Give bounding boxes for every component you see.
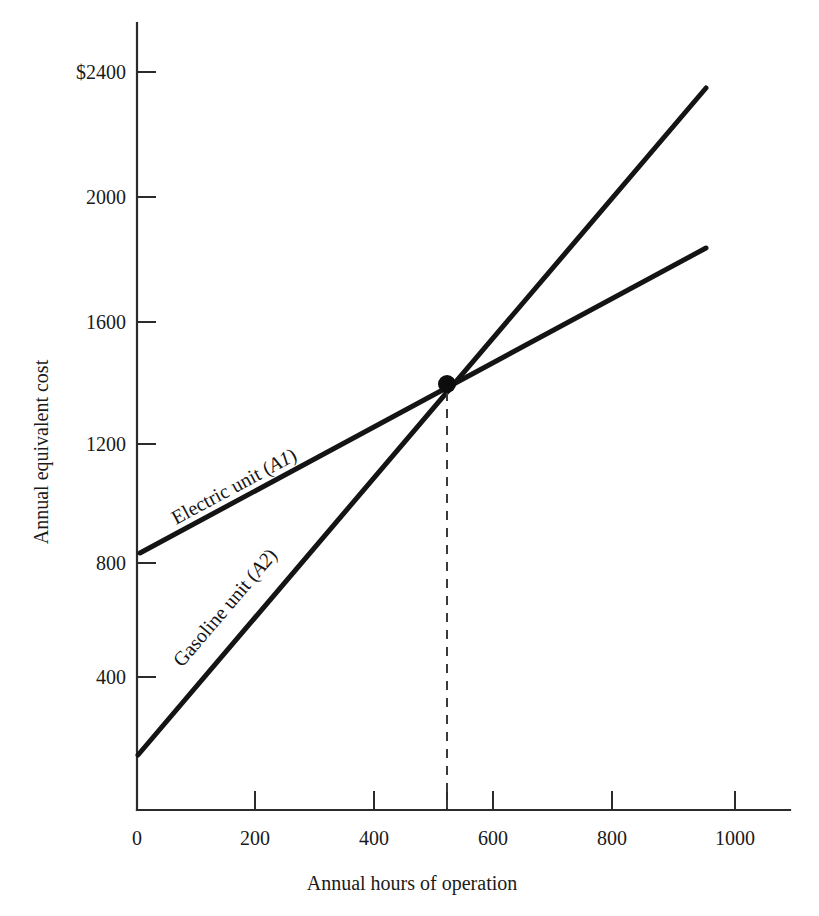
y-ticklabel-2400: $2400 <box>76 61 126 83</box>
x-ticks-group <box>255 786 735 810</box>
series-line-electric-unit <box>140 248 706 553</box>
x-ticklabel-0: 0 <box>132 827 142 849</box>
breakeven-point-marker <box>438 375 456 393</box>
y-ticklabel-400: 400 <box>96 666 126 688</box>
x-ticklabel-800: 800 <box>597 827 627 849</box>
series-label-electric-unit: Electric unit (A1) <box>167 443 300 529</box>
series-label-electric-text: Electric unit ( <box>167 457 275 530</box>
y-axis-title: Annual equivalent cost <box>30 359 53 544</box>
y-ticklabel-1200: 1200 <box>86 433 126 455</box>
chart-figure: $2400 2000 1600 1200 800 400 0 200 400 6… <box>0 0 819 916</box>
x-ticklabel-200: 200 <box>240 827 270 849</box>
y-ticklabel-800: 800 <box>96 552 126 574</box>
series-label-gasoline-text: Gasoline unit ( <box>168 566 263 672</box>
y-ticklabel-2000: 2000 <box>86 186 126 208</box>
breakeven-annotation-group <box>438 375 456 808</box>
x-ticklabels-group: 0 200 400 600 800 1000 <box>132 827 755 849</box>
series-line-gasoline-unit <box>138 88 706 755</box>
y-ticklabel-1600: 1600 <box>86 311 126 333</box>
x-ticklabel-1000: 1000 <box>715 827 755 849</box>
series-group <box>138 88 706 755</box>
axes-group <box>137 23 790 810</box>
y-ticks-group <box>137 72 156 677</box>
x-ticklabel-600: 600 <box>478 827 508 849</box>
x-axis-title: Annual hours of operation <box>307 872 518 895</box>
x-ticklabel-400: 400 <box>359 827 389 849</box>
y-ticklabels-group: $2400 2000 1600 1200 800 400 <box>76 61 126 688</box>
chart-svg: $2400 2000 1600 1200 800 400 0 200 400 6… <box>0 0 819 916</box>
